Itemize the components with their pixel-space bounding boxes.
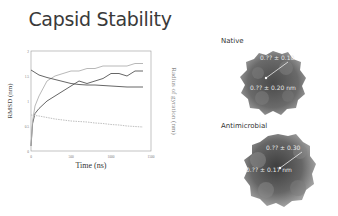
y2-axis-label: Radius of gyration (nm)	[170, 67, 178, 135]
native-measure-bottom: 0.?? ± 0.20 nm	[250, 84, 296, 91]
y-tick-label: 1.5	[25, 75, 30, 79]
x-tick-label: 1000	[108, 155, 115, 159]
y-axis-label: RMSD (nm)	[6, 83, 14, 119]
plot-frame	[31, 51, 151, 151]
y-tick-label: 2	[27, 50, 29, 54]
series-line	[31, 115, 143, 127]
x-tick-label: 0	[30, 155, 32, 159]
native-measure-top: 0.?? ± 0.10	[260, 54, 294, 61]
line-chart-svg: 05001000150000.511.52 Time (ns) RMSD (nm…	[0, 44, 200, 184]
antimicrobial-measure-bottom: 0.?? ± 0.17 nm	[246, 166, 292, 173]
slide-title: Capsid Stability	[0, 8, 200, 30]
y-tick-label: 0	[27, 150, 29, 154]
y-tick-label: 1	[27, 100, 29, 104]
antimicrobial-label: Antimicrobial	[221, 122, 267, 130]
x-axis-label: Time (ns)	[75, 161, 106, 170]
y-tick-label: 0.5	[25, 125, 30, 129]
antimicrobial-measure-top: 0.?? ± 0.30	[266, 144, 300, 151]
series-layer	[31, 64, 143, 147]
x-tick-label: 500	[68, 155, 74, 159]
native-capsid-image: 0.?? ± 0.10 0.?? ± 0.20 nm	[238, 48, 308, 118]
x-tick-label: 1500	[148, 155, 155, 159]
series-line	[31, 71, 143, 146]
rmsd-rg-chart: 05001000150000.511.52 Time (ns) RMSD (nm…	[0, 44, 200, 184]
native-label: Native	[221, 37, 244, 45]
series-line	[31, 70, 143, 87]
antimicrobial-capsid-image: 0.?? ± 0.30 0.?? ± 0.17 nm	[240, 130, 320, 210]
